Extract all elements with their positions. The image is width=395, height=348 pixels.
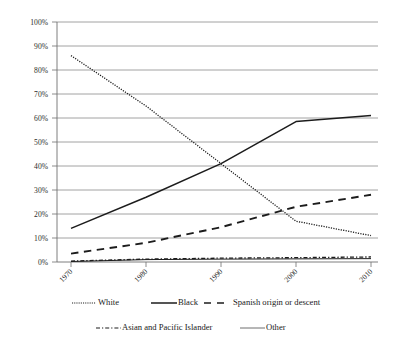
y-axis-label: 20%	[34, 210, 49, 219]
legend-label-asian-pacific-islander: Asian and Pacific Islander	[122, 322, 213, 332]
x-tickmarks	[71, 262, 371, 267]
legend: White Black Spanish origin or descent As…	[72, 297, 321, 332]
legend-label-other: Other	[266, 322, 286, 332]
series-layer	[71, 56, 371, 262]
y-axis-label: 30%	[34, 186, 49, 195]
series-line-other	[71, 259, 371, 262]
y-axis-label: 40%	[34, 162, 49, 171]
x-axis-label: 2000	[282, 267, 299, 284]
legend-item-other[interactable]: Other	[240, 322, 286, 332]
y-axis-labels: 100% 90% 80% 70% 60% 50% 40% 30% 20% 10%…	[30, 18, 48, 267]
legend-item-white[interactable]: White	[72, 297, 119, 307]
gridlines	[57, 22, 378, 238]
series-line-white	[71, 56, 371, 236]
y-axis-label: 100%	[30, 18, 48, 27]
series-line-spanish-origin-or-descent	[71, 195, 371, 254]
x-axis-label: 1980	[132, 267, 149, 284]
y-axis-label: 10%	[34, 234, 49, 243]
legend-label-white: White	[98, 297, 119, 307]
legend-item-asian-pacific-islander[interactable]: Asian and Pacific Islander	[96, 322, 213, 332]
y-axis-label: 80%	[34, 66, 49, 75]
chart-canvas: 100% 90% 80% 70% 60% 50% 40% 30% 20% 10%…	[0, 0, 395, 348]
x-axis-label: 1970	[57, 267, 74, 284]
x-axis-label: 2010	[357, 267, 374, 284]
y-tickmarks	[52, 22, 57, 262]
y-axis-label: 0%	[38, 258, 49, 267]
y-axis-label: 90%	[34, 42, 49, 51]
legend-label-spanish-origin: Spanish origin or descent	[233, 297, 321, 307]
series-line-black	[71, 116, 371, 229]
legend-item-spanish[interactable]: Spanish origin or descent	[204, 297, 321, 307]
y-axis-label: 70%	[34, 90, 49, 99]
line-chart: 100% 90% 80% 70% 60% 50% 40% 30% 20% 10%…	[0, 0, 395, 348]
x-axis-label: 1990	[207, 267, 224, 284]
legend-label-black: Black	[178, 297, 199, 307]
y-axis-label: 50%	[34, 138, 49, 147]
x-axis-labels: 1970 1980 1990 2000 2010	[57, 267, 374, 284]
legend-item-black[interactable]: Black	[151, 297, 199, 307]
y-axis-label: 60%	[34, 114, 49, 123]
